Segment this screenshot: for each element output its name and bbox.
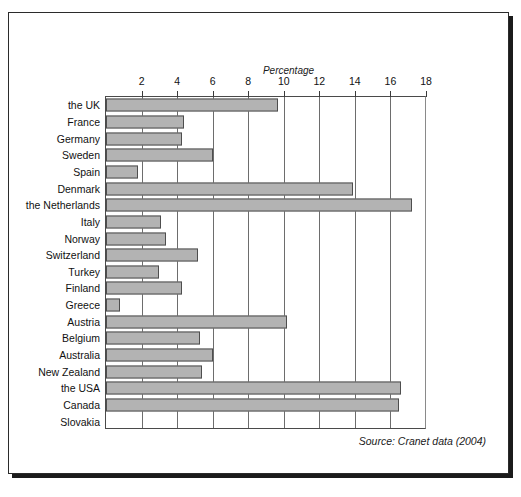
bar — [106, 232, 166, 245]
bar — [106, 149, 213, 162]
bar — [106, 115, 184, 128]
bar — [106, 182, 353, 195]
bar — [106, 132, 182, 145]
bar-row: Germany — [106, 130, 425, 147]
bar-row: the Netherlands — [106, 197, 425, 214]
bar-row: Italy — [106, 214, 425, 231]
bar — [106, 165, 138, 178]
category-label: Austria — [67, 316, 100, 328]
x-axis-title: Percentage — [9, 65, 508, 76]
bar-row: France — [106, 114, 425, 131]
bar-row: Spain — [106, 164, 425, 181]
source-note: Source: Cranet data (2004) — [359, 435, 486, 447]
bar — [106, 199, 412, 212]
bar — [106, 282, 182, 295]
category-label: New Zealand — [38, 366, 100, 378]
bar-row: the UK — [106, 97, 425, 114]
bar-row: Finland — [106, 280, 425, 297]
tick-mark-18 — [426, 91, 427, 97]
bar-row: Australia — [106, 347, 425, 364]
category-label: Spain — [73, 166, 100, 178]
bar-row: Norway — [106, 230, 425, 247]
bar — [106, 299, 120, 312]
x-tick-label-2: 2 — [139, 75, 145, 87]
gridline-18 — [426, 97, 427, 428]
category-label: the USA — [61, 382, 100, 394]
bar-row: Canada — [106, 397, 425, 414]
category-label: Sweden — [62, 149, 100, 161]
category-label: Finland — [66, 282, 100, 294]
bar-row: Slovakia — [106, 413, 425, 430]
bar — [106, 215, 161, 228]
bar — [106, 265, 159, 278]
category-label: Denmark — [57, 183, 100, 195]
figure-page: Percentage 24681012141618 the UKFranceGe… — [0, 0, 521, 497]
category-label: Italy — [81, 216, 100, 228]
clipped-header-text — [290, 0, 505, 7]
category-label: Belgium — [62, 332, 100, 344]
bar — [106, 99, 278, 112]
x-tick-label-12: 12 — [313, 75, 325, 87]
x-tick-label-10: 10 — [278, 75, 290, 87]
category-label: Australia — [59, 349, 100, 361]
bar-row: Greece — [106, 297, 425, 314]
bar — [106, 332, 200, 345]
bar-row: Switzerland — [106, 247, 425, 264]
bar-row: Turkey — [106, 264, 425, 281]
bar-row: Denmark — [106, 180, 425, 197]
category-label: Germany — [57, 133, 100, 145]
category-label: Switzerland — [46, 249, 100, 261]
bar-row: New Zealand — [106, 363, 425, 380]
category-label: Canada — [63, 399, 100, 411]
plot-area: 24681012141618 the UKFranceGermanySweden… — [105, 96, 426, 429]
bar — [106, 315, 287, 328]
x-tick-label-4: 4 — [174, 75, 180, 87]
category-label: the Netherlands — [26, 199, 100, 211]
bar-row: Austria — [106, 313, 425, 330]
x-tick-label-6: 6 — [210, 75, 216, 87]
bar-chart: Percentage 24681012141618 the UKFranceGe… — [9, 13, 508, 473]
x-tick-label-18: 18 — [420, 75, 432, 87]
category-label: Greece — [66, 299, 100, 311]
x-tick-label-8: 8 — [245, 75, 251, 87]
bar — [106, 382, 401, 395]
bar-row: the USA — [106, 380, 425, 397]
x-tick-label-14: 14 — [349, 75, 361, 87]
chart-frame: Percentage 24681012141618 the UKFranceGe… — [8, 12, 509, 474]
category-label: France — [67, 116, 100, 128]
bar — [106, 349, 213, 362]
bar — [106, 249, 198, 262]
category-label: Turkey — [68, 266, 100, 278]
category-label: the UK — [68, 99, 100, 111]
bar — [106, 399, 399, 412]
bar-row: Belgium — [106, 330, 425, 347]
category-label: Slovakia — [60, 416, 100, 428]
bar — [106, 365, 202, 378]
category-label: Norway — [64, 233, 100, 245]
bar-row: Sweden — [106, 147, 425, 164]
x-tick-label-16: 16 — [385, 75, 397, 87]
